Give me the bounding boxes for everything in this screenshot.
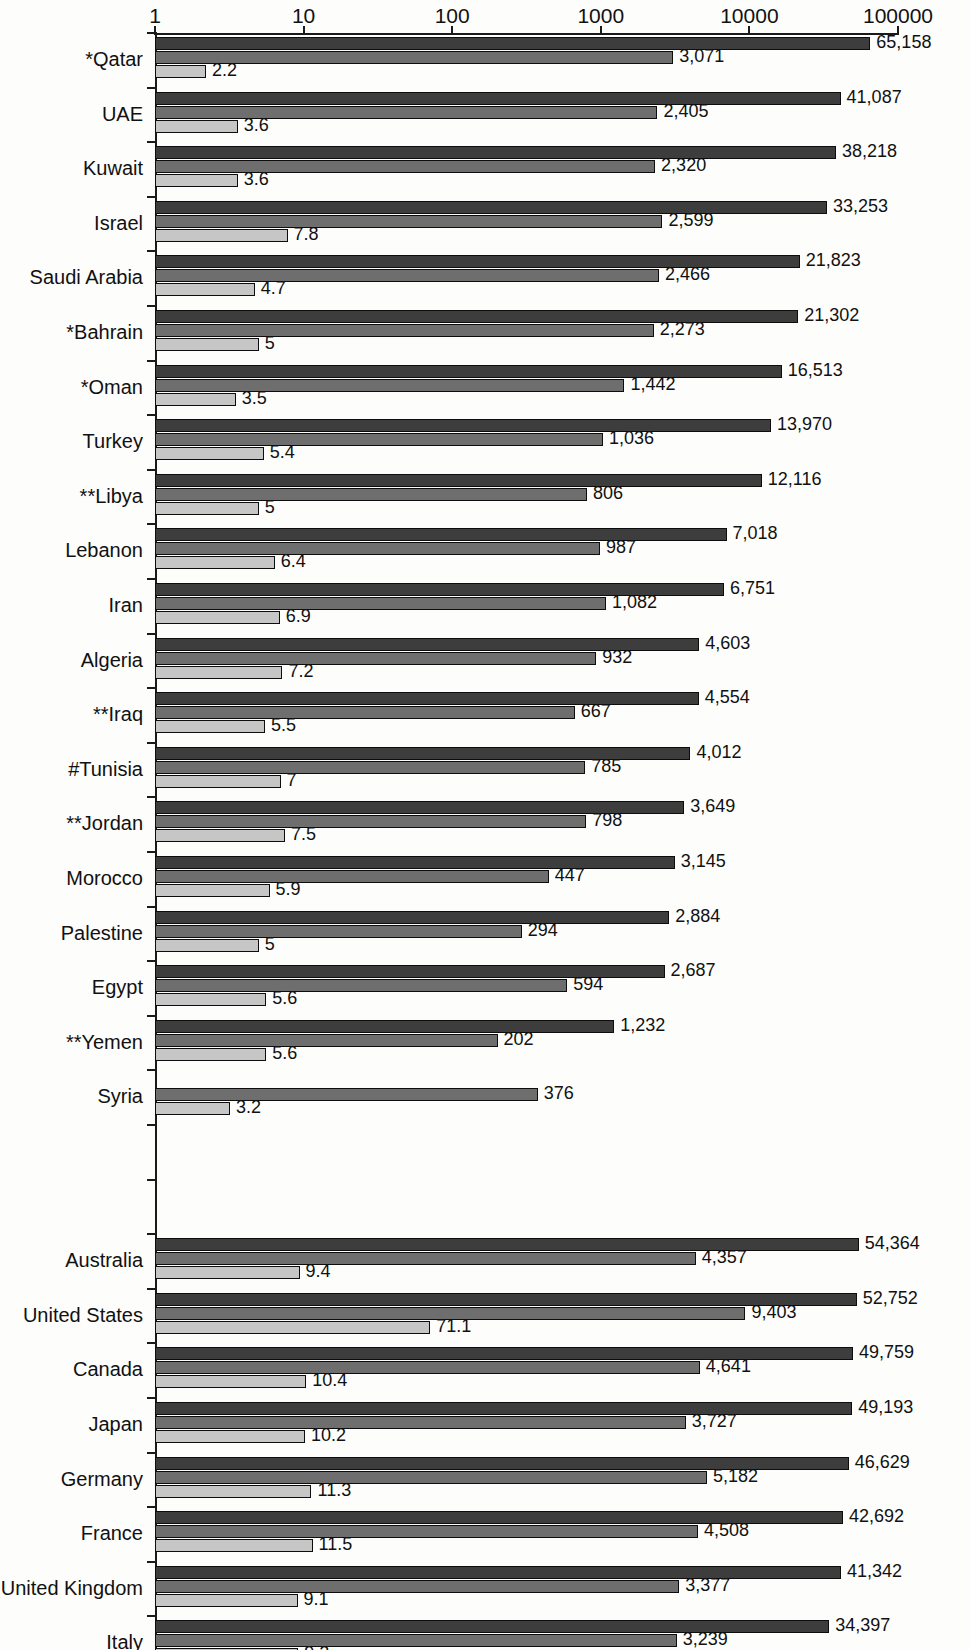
gni-bar [155, 1020, 614, 1033]
chart-row: Kuwait38,2182,3203.6 [0, 142, 970, 197]
chart-row: Lebanon7,0189876.4 [0, 524, 970, 579]
x-axis-tick-label: 1 [149, 4, 161, 28]
chart-row: Canada49,7594,64110.4 [0, 1343, 970, 1398]
x-axis-tick-label: 10000 [720, 4, 778, 28]
bar-value-label: 3.2 [236, 1101, 261, 1114]
bar-value-label: 71.1 [436, 1320, 471, 1333]
bar-value-label: 3,727 [692, 1415, 737, 1428]
bar-value-label: 42,692 [849, 1510, 904, 1523]
chart-row: Saudi Arabia21,8232,4664.7 [0, 251, 970, 306]
chart-row: Australia54,3644,3579.4 [0, 1234, 970, 1289]
gni-bar [155, 146, 836, 159]
gni-bar [155, 201, 827, 214]
health-per-capita-bar [155, 488, 587, 501]
chart-row: Iran6,7511,0826.9 [0, 579, 970, 634]
bar-value-label: 3,145 [681, 855, 726, 868]
bar-value-label: 202 [504, 1033, 534, 1046]
bar-value-label: 4.7 [261, 282, 286, 295]
bar-value-label: 9.1 [304, 1593, 329, 1606]
category-label: **Iraq [0, 704, 143, 724]
health-per-capita-bar [155, 706, 575, 719]
chart-row: Israel33,2532,5997.8 [0, 197, 970, 252]
category-label: **Yemen [0, 1032, 143, 1052]
health-per-capita-bar [155, 215, 662, 228]
health-pct-gdp-bar [155, 393, 236, 406]
category-label: Australia [0, 1250, 143, 1270]
chart-row: Germany46,6295,18211.3 [0, 1453, 970, 1508]
health-pct-gdp-bar [155, 993, 266, 1006]
chart-row: *Oman16,5131,4423.5 [0, 361, 970, 416]
health-per-capita-bar [155, 1416, 686, 1429]
category-label: United States [0, 1305, 143, 1325]
bar-value-label: 3.5 [242, 392, 267, 405]
bar-value-label: 2,687 [671, 964, 716, 977]
health-pct-gdp-bar [155, 1266, 300, 1279]
health-per-capita-bar [155, 324, 654, 337]
bar-value-label: 49,759 [859, 1346, 914, 1359]
health-pct-gdp-bar [155, 775, 281, 788]
health-pct-gdp-bar [155, 65, 206, 78]
health-per-capita-bar [155, 542, 600, 555]
chart-row: **Libya12,1168065 [0, 470, 970, 525]
health-per-capita-bar [155, 269, 659, 282]
chart-row: Egypt2,6875945.6 [0, 961, 970, 1016]
chart-row: Japan49,1933,72710.2 [0, 1398, 970, 1453]
category-label: Lebanon [0, 540, 143, 560]
bar-value-label: 9.4 [306, 1265, 331, 1278]
category-label: Morocco [0, 868, 143, 888]
bar-value-label: 1,036 [609, 432, 654, 445]
bar-value-label: 3.6 [244, 173, 269, 186]
bar-value-label: 1,442 [630, 378, 675, 391]
bar-value-label: 21,823 [806, 254, 861, 267]
health-pct-gdp-bar [155, 338, 259, 351]
bar-value-label: 2,320 [661, 159, 706, 172]
category-label: Algeria [0, 650, 143, 670]
health-per-capita-bar [155, 1252, 696, 1265]
category-label: UAE [0, 104, 143, 124]
health-pct-gdp-bar [155, 174, 238, 187]
bar-value-label: 1,232 [620, 1019, 665, 1032]
health-pct-gdp-bar [155, 1102, 230, 1115]
gni-bar [155, 692, 699, 705]
bar-value-label: 2,599 [668, 214, 713, 227]
chart-row: Algeria4,6039327.2 [0, 634, 970, 689]
category-label: Germany [0, 1469, 143, 1489]
chart-row: United States52,7529,40371.1 [0, 1289, 970, 1344]
bar-value-label: 2,405 [663, 105, 708, 118]
chart-row: **Iraq4,5546675.5 [0, 688, 970, 743]
bar-value-label: 11.5 [319, 1538, 353, 1551]
x-axis-tick-label: 1000 [577, 4, 624, 28]
bar-value-label: 6,751 [730, 582, 775, 595]
log-scale-bar-chart: 110100100010000100000 *Qatar65,1583,0712… [0, 0, 970, 1650]
bar-value-label: 5 [265, 501, 275, 514]
health-per-capita-bar [155, 1580, 679, 1593]
gni-bar [155, 528, 727, 541]
health-pct-gdp-bar [155, 1485, 311, 1498]
health-pct-gdp-bar [155, 502, 259, 515]
bar-value-label: 1,082 [612, 596, 657, 609]
health-per-capita-bar [155, 815, 586, 828]
bar-value-label: 34,397 [835, 1619, 890, 1632]
health-per-capita-bar [155, 597, 606, 610]
bar-value-label: 13,970 [777, 418, 832, 431]
health-pct-gdp-bar [155, 447, 264, 460]
bar-value-label: 2.2 [212, 64, 237, 77]
chart-row: Italy34,3973,2399.2 [0, 1616, 970, 1650]
chart-row [0, 1180, 970, 1235]
health-per-capita-bar [155, 379, 624, 392]
bar-value-label: 2,884 [675, 910, 720, 923]
bar-value-label: 785 [591, 760, 621, 773]
category-label: Iran [0, 595, 143, 615]
health-per-capita-bar [155, 870, 549, 883]
x-axis-tick-label: 100 [435, 4, 470, 28]
bar-value-label: 3,649 [690, 800, 735, 813]
category-label: #Tunisia [0, 759, 143, 779]
bar-value-label: 4,012 [696, 746, 741, 759]
health-pct-gdp-bar [155, 884, 270, 897]
bar-value-label: 21,302 [804, 309, 859, 322]
bar-value-label: 4,357 [702, 1251, 747, 1264]
bar-value-label: 4,641 [706, 1360, 751, 1373]
health-pct-gdp-bar [155, 1539, 313, 1552]
bar-value-label: 54,364 [865, 1237, 920, 1250]
gni-bar [155, 92, 841, 105]
